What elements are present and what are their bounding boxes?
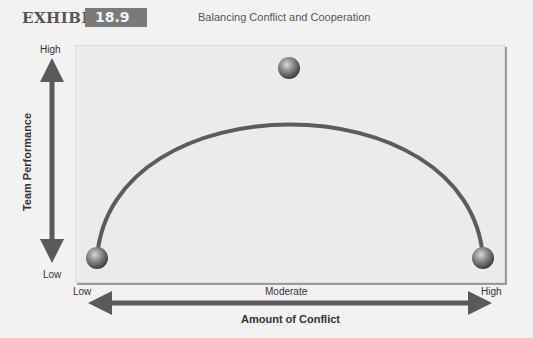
point-high-conflict (472, 247, 494, 269)
x-axis-high-label: High (481, 286, 502, 297)
x-axis-title: Amount of Conflict (241, 313, 340, 325)
performance-curve (97, 125, 483, 259)
y-axis-low-label: Low (43, 269, 61, 280)
point-low-conflict (86, 247, 108, 269)
y-axis-double-arrow (40, 58, 64, 263)
x-axis-low-label: Low (73, 286, 91, 297)
x-axis-moderate-label: Moderate (265, 286, 307, 297)
y-axis-high-label: High (40, 44, 61, 55)
point-moderate-conflict (278, 57, 300, 79)
y-axis-title: Team Performance (21, 113, 33, 211)
